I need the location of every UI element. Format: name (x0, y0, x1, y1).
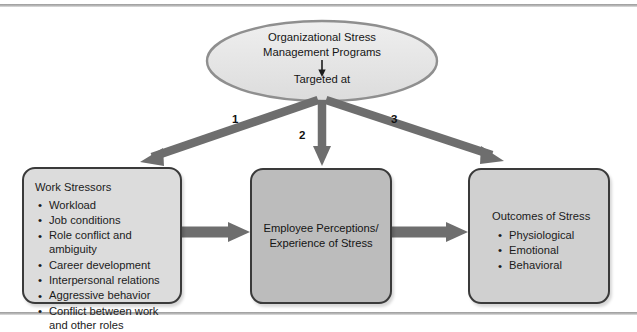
list-item: Physiological (498, 229, 608, 243)
employee-perceptions-line2: Experience of Stress (263, 236, 378, 251)
employee-perceptions-line1: Employee Perceptions/ (263, 221, 378, 236)
list-item: Role conflict and ambiguity (38, 229, 180, 257)
arrow-number-1: 1 (232, 113, 238, 125)
work-stressors-list: Workload Job conditions Role conflict an… (38, 197, 180, 332)
arrow-3-to-outcomes (326, 100, 504, 164)
list-item: Workload (38, 199, 180, 213)
list-item: Emotional (498, 244, 608, 258)
node-outcomes-of-stress: Outcomes of Stress Physiological Emotion… (468, 168, 610, 304)
list-item: Aggressive behavior (38, 289, 180, 303)
arrow-number-2: 2 (299, 129, 305, 141)
list-item: Behavioral (498, 259, 608, 273)
list-item: Job conditions (38, 214, 180, 228)
arrow-1-to-work-stressors (140, 100, 318, 166)
arrow-number-3: 3 (391, 113, 397, 125)
list-item: Conflict between work and other roles (38, 305, 180, 332)
work-stressors-title: Work Stressors (35, 180, 111, 194)
outcomes-list: Physiological Emotional Behavioral (498, 227, 608, 273)
node-employee-perceptions: Employee Perceptions/ Experience of Stre… (250, 168, 392, 304)
arrow-work-to-perceptions (182, 222, 250, 242)
employee-perceptions-label: Employee Perceptions/ Experience of Stre… (255, 221, 386, 251)
arrow-perceptions-to-outcomes (392, 222, 468, 242)
arrow-2-to-employee-perceptions (313, 100, 331, 166)
list-item: Career development (38, 259, 180, 273)
list-item: Interpersonal relations (38, 274, 180, 288)
outcomes-title: Outcomes of Stress (492, 209, 590, 223)
node-work-stressors: Work Stressors Workload Job conditions R… (22, 167, 182, 304)
stress-management-diagram: Organizational Stress Management Program… (0, 0, 637, 332)
